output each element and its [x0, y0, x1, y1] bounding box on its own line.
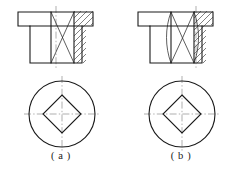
variant-a-front-view	[18, 0, 101, 98]
intersection-curve-b-3	[167, 12, 172, 63]
section-hatching-b	[186, 0, 221, 98]
variant-b-front-view	[138, 0, 221, 98]
variant-b-plan-view	[144, 76, 220, 152]
technical-drawing-canvas	[0, 0, 240, 171]
drawing-sheet: ( a ) ( b )	[0, 0, 240, 171]
variant-a-plan-view	[24, 76, 100, 152]
figure-caption-b: ( b )	[153, 150, 209, 161]
section-hatching-a	[66, 0, 101, 98]
part-outline-a	[18, 12, 93, 63]
part-outline-b	[138, 12, 213, 63]
figure-caption-a: ( a )	[33, 150, 89, 161]
